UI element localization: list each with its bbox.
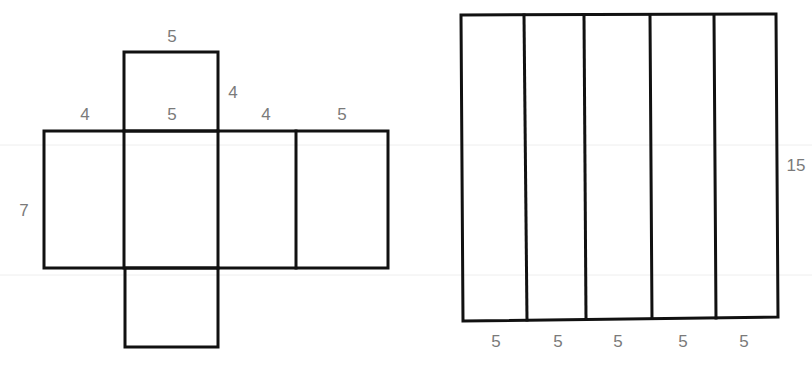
lateral-divider bbox=[524, 15, 527, 320]
label-strip-width: 5 bbox=[739, 332, 748, 351]
lateral-divider bbox=[714, 15, 716, 318]
net-main-row bbox=[44, 131, 388, 268]
label-face3-width: 4 bbox=[261, 105, 270, 124]
lateral-divider bbox=[584, 15, 586, 319]
label-strip-width: 5 bbox=[613, 332, 622, 351]
diagram-canvas: 5 4 4 5 4 5 7 15 5 5 5 5 5 bbox=[0, 0, 812, 368]
label-lateral-height: 15 bbox=[787, 156, 806, 175]
label-strip-width: 5 bbox=[553, 332, 562, 351]
lateral-divider bbox=[650, 15, 652, 318]
prism-net: 5 4 4 5 4 5 7 bbox=[19, 27, 388, 347]
label-strip-width: 5 bbox=[678, 332, 687, 351]
label-row-height: 7 bbox=[19, 201, 28, 220]
net-bottom-flap bbox=[125, 268, 218, 347]
label-top-flap-height: 4 bbox=[228, 83, 237, 102]
label-face4-width: 5 bbox=[337, 105, 346, 124]
label-face1-width: 4 bbox=[80, 105, 89, 124]
label-strip-width: 5 bbox=[491, 332, 500, 351]
lateral-surface: 15 5 5 5 5 5 bbox=[461, 14, 805, 351]
label-top-flap-width: 5 bbox=[167, 27, 176, 46]
label-face2-width: 5 bbox=[167, 105, 176, 124]
